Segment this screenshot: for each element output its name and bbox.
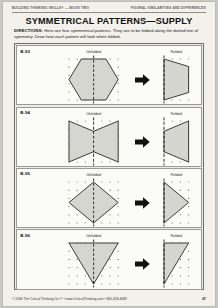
exercise-row: B-94UnfoldedFolded <box>16 107 202 167</box>
folded-caption: Folded <box>160 234 193 238</box>
unfolded-dot-grid <box>65 55 122 104</box>
exercise-number: B-93 <box>20 49 30 54</box>
right-arrow-icon <box>135 134 150 146</box>
exercise-number: B-96 <box>20 233 30 238</box>
right-arrow-icon <box>135 256 150 268</box>
directions: DIRECTIONS: Here are four symmetrical pa… <box>14 28 204 40</box>
footer-copyright: © 2006 The Critical Thinking Co.™ • www.… <box>12 297 127 301</box>
page-number: 47 <box>202 297 206 301</box>
unfolded-caption: Unfolded <box>65 112 122 116</box>
folded-caption: Folded <box>160 173 193 177</box>
worksheet-page: Building Thinking Skills® — Book Two Fig… <box>3 2 215 306</box>
exercise-number: B-95 <box>20 171 30 176</box>
exercise-frame: B-93UnfoldedFoldedB-94UnfoldedFoldedB-95… <box>14 43 204 290</box>
exercise-number: B-94 <box>20 110 30 115</box>
directions-label: DIRECTIONS: <box>14 28 43 33</box>
unfolded-caption: Unfolded <box>65 50 122 54</box>
exercise-row: B-93UnfoldedFolded <box>16 45 202 105</box>
folded-caption: Folded <box>160 112 193 116</box>
folded-caption: Folded <box>160 50 193 54</box>
running-head-right: Figural Similarities and Differences <box>131 6 206 10</box>
right-arrow-icon <box>135 195 150 207</box>
folded-dot-grid[interactable] <box>160 239 193 288</box>
running-head-left: Building Thinking Skills® — Book Two <box>12 6 89 10</box>
right-arrow-icon <box>135 72 150 84</box>
unfolded-caption: Unfolded <box>65 173 122 177</box>
exercise-row: B-96UnfoldedFolded <box>16 229 202 290</box>
folded-dot-grid[interactable] <box>160 178 193 227</box>
header-divider <box>12 12 206 13</box>
unfolded-dot-grid <box>65 178 122 227</box>
unfolded-dot-grid <box>65 239 122 288</box>
folded-dot-grid[interactable] <box>160 117 193 166</box>
unfolded-caption: Unfolded <box>65 234 122 238</box>
page-title: SYMMETRICAL PATTERNS—SUPPLY <box>3 16 215 26</box>
exercise-row: B-95UnfoldedFolded <box>16 168 202 228</box>
unfolded-dot-grid <box>65 117 122 166</box>
folded-dot-grid[interactable] <box>160 55 193 104</box>
